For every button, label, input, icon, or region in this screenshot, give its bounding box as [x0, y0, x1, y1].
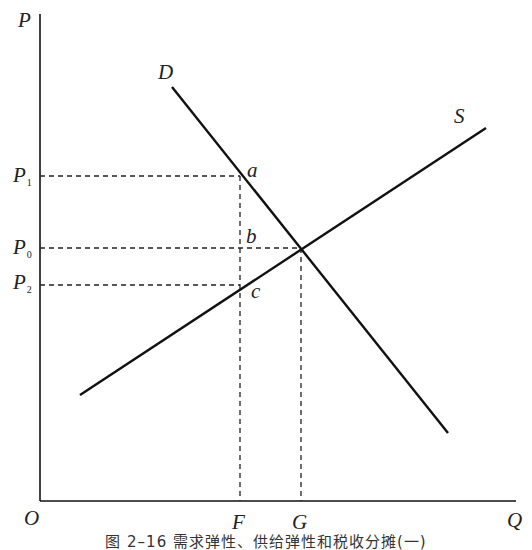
p2-subscript: 2 — [27, 284, 32, 295]
point-a-label: a — [247, 160, 258, 181]
figure-caption: 图 2–16 需求弹性、供给弹性和税收分摊(一) — [0, 530, 532, 550]
price-label-p1: P1 — [13, 165, 32, 188]
p1-subscript: 1 — [27, 177, 32, 188]
supply-curve — [80, 128, 486, 395]
point-b-label: b — [246, 226, 257, 247]
x-axis-label: Q — [507, 510, 522, 531]
dashed-guides — [40, 176, 301, 501]
supply-label: S — [454, 106, 465, 127]
price-label-p0: P0 — [13, 237, 32, 260]
y-axis-label: P — [18, 10, 31, 31]
p0-subscript: 0 — [27, 249, 32, 260]
demand-label: D — [158, 62, 173, 83]
point-c-label: c — [251, 281, 260, 302]
origin-label: O — [24, 508, 39, 529]
p2-letter: P — [13, 270, 26, 294]
p1-letter: P — [13, 163, 26, 187]
p0-letter: P — [13, 235, 26, 259]
demand-curve — [172, 87, 448, 433]
price-label-p2: P2 — [13, 272, 32, 295]
supply-demand-diagram — [0, 0, 532, 550]
